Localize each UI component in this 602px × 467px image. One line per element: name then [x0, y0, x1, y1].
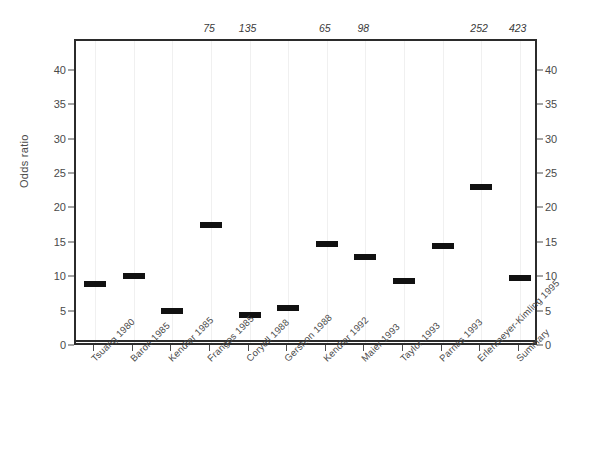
y-tick-label-left-10: 10 [40, 270, 66, 282]
y-tick-label-left-30: 30 [40, 133, 66, 145]
top-annotation-252: 252 [470, 22, 488, 34]
y-tick-label-right-30: 30 [545, 133, 557, 145]
y-tick-label-left-25: 25 [40, 167, 66, 179]
y-tick-label-right-25: 25 [545, 167, 557, 179]
guide-line [404, 41, 405, 343]
guide-line [365, 41, 366, 343]
guide-line [172, 41, 173, 343]
y-tick-label-left-15: 15 [40, 236, 66, 248]
guide-line [134, 41, 135, 343]
guide-line [520, 41, 521, 343]
y-tick-label-right-20: 20 [545, 201, 557, 213]
odds-ratio-chart: Odds ratio 0510152025303540 051015202530… [0, 0, 602, 467]
guide-line [250, 41, 251, 343]
y-tick-mark-right-15 [537, 241, 543, 242]
top-annotation-65: 65 [319, 22, 331, 34]
y-tick-label-left-5: 5 [40, 305, 66, 317]
y-axis-title: Odds ratio [18, 134, 30, 188]
guide-line [211, 41, 212, 343]
y-tick-label-right-5: 5 [545, 305, 551, 317]
y-axis-right-labels: 0510152025303540 [545, 0, 585, 467]
guide-line [288, 41, 289, 343]
data-marker [161, 308, 183, 314]
data-marker [509, 275, 531, 281]
y-axis-left-labels: 0510152025303540 [40, 0, 66, 467]
plot-inner [76, 41, 535, 343]
guide-line [327, 41, 328, 343]
y-axis-right-ticks [537, 0, 543, 467]
y-tick-mark-right-5 [537, 310, 543, 311]
data-marker [123, 273, 145, 279]
data-marker [200, 222, 222, 228]
y-tick-mark-right-30 [537, 138, 543, 139]
plot-area [74, 39, 537, 345]
y-tick-label-right-40: 40 [545, 64, 557, 76]
data-marker [432, 243, 454, 249]
guide-line [95, 41, 96, 343]
y-tick-label-left-35: 35 [40, 98, 66, 110]
data-marker [277, 305, 299, 311]
top-annotation-423: 423 [509, 22, 527, 34]
guide-line [481, 41, 482, 343]
y-tick-mark-right-40 [537, 69, 543, 70]
data-marker [470, 184, 492, 190]
guide-line [443, 41, 444, 343]
y-tick-mark-right-35 [537, 104, 543, 105]
y-tick-mark-right-10 [537, 276, 543, 277]
top-annotation-135: 135 [239, 22, 257, 34]
data-marker [354, 254, 376, 260]
data-marker [316, 241, 338, 247]
top-annotation-98: 98 [358, 22, 370, 34]
y-tick-label-left-40: 40 [40, 64, 66, 76]
y-tick-label-right-35: 35 [545, 98, 557, 110]
y-tick-label-right-0: 0 [545, 339, 551, 351]
y-tick-mark-right-20 [537, 207, 543, 208]
y-tick-label-left-0: 0 [40, 339, 66, 351]
y-tick-mark-right-25 [537, 173, 543, 174]
data-marker [393, 278, 415, 284]
data-marker [84, 281, 106, 287]
y-tick-label-left-20: 20 [40, 201, 66, 213]
y-tick-label-right-15: 15 [545, 236, 557, 248]
top-annotation-75: 75 [203, 22, 215, 34]
